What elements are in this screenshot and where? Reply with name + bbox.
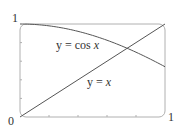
y-max-label: 1 bbox=[12, 11, 18, 25]
chart: 1 0 1 y = cos x y = x bbox=[0, 0, 183, 130]
identity-line-label: y = x bbox=[87, 75, 112, 89]
origin-label: 0 bbox=[8, 114, 14, 128]
x-max-label: 1 bbox=[168, 110, 174, 124]
cos-curve-label: y = cos x bbox=[56, 38, 100, 52]
